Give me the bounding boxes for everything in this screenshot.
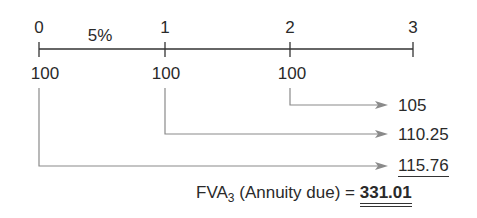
result-subscript: 3 bbox=[228, 191, 235, 205]
period-label-1: 1 bbox=[160, 19, 169, 36]
payment-period-2: 100 bbox=[278, 65, 306, 82]
result-value: 331.01 bbox=[360, 183, 412, 207]
period-label-3: 3 bbox=[408, 19, 417, 36]
result-line: FVA3 (Annuity due) = 331.01 bbox=[196, 184, 412, 203]
payment-period-1: 100 bbox=[152, 65, 180, 82]
future-value-115-76: 115.76 bbox=[398, 157, 449, 174]
period-label-0: 0 bbox=[34, 19, 43, 36]
arrow-line-period-2 bbox=[290, 88, 380, 105]
interest-rate-label: 5% bbox=[88, 27, 113, 44]
arrow-line-period-1 bbox=[165, 88, 380, 134]
payment-period-0: 100 bbox=[31, 65, 59, 82]
future-value-115-76-text: 115.76 bbox=[398, 156, 449, 177]
future-value-110-25: 110.25 bbox=[398, 126, 449, 143]
result-prefix: FVA bbox=[196, 183, 228, 202]
period-label-2: 2 bbox=[285, 19, 294, 36]
result-description: (Annuity due) = bbox=[235, 183, 360, 202]
future-value-105: 105 bbox=[398, 97, 426, 114]
arrow-line-period-0 bbox=[39, 88, 380, 166]
